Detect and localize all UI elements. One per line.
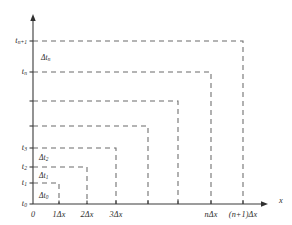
staircase-step-5 (33, 72, 211, 204)
delta-t-sub: 2 (46, 156, 49, 162)
x-axis-arrowhead (261, 201, 268, 206)
y-tick-label-t0: t0 (0, 200, 27, 209)
staircase-step-3 (33, 126, 148, 204)
y-tick-label-tnp1: tn+1 (0, 37, 27, 46)
delta-t-prefix: Δt (39, 191, 46, 200)
y-tick-label-sub: n (24, 70, 27, 76)
delta-t-sub: n (48, 56, 51, 62)
axes-group (30, 14, 268, 207)
y-tick-label-sub: n+1 (18, 39, 27, 45)
x-tick-label-x3: 3Δx (110, 211, 123, 219)
staircase-figure: t0t1t2t3tntn+1 01Δx2Δx3ΔxnΔx(n+1)Δx Δt0Δ… (0, 0, 292, 225)
y-tick-label-sub: 1 (24, 181, 27, 187)
delta-t-label-dtn: Δtn (41, 54, 50, 62)
delta-t-label-dt0: Δt0 (39, 192, 48, 200)
delta-t-label-dt2: Δt2 (39, 154, 48, 162)
x-tick-label-xnp1: (n+1)Δx (229, 211, 257, 219)
staircase-step-4 (33, 101, 178, 204)
x-tick-label-xn: nΔx (205, 211, 218, 219)
delta-t-prefix: Δt (39, 171, 46, 180)
y-tick-label-tn: tn (0, 68, 27, 77)
delta-t-sub: 0 (46, 194, 49, 200)
y-tick-label-t2: t2 (0, 163, 27, 172)
x-axis-name-label: x (279, 197, 283, 205)
x-tick-label-x1: 1Δx (53, 211, 66, 219)
delta-t-prefix: Δt (41, 53, 48, 62)
staircase-dashed-paths (33, 41, 243, 204)
x-tick-label-x0: 0 (31, 211, 35, 219)
delta-t-label-dt1: Δt1 (39, 172, 48, 180)
y-axis-arrowhead (30, 14, 35, 21)
y-tick-label-t1: t1 (0, 179, 27, 188)
delta-t-sub: 1 (46, 174, 49, 180)
delta-t-prefix: Δt (39, 153, 46, 162)
y-tick-label-sub: 3 (24, 146, 27, 152)
y-tick-label-sub: 2 (24, 165, 27, 171)
y-tick-label-sub: 0 (24, 202, 27, 208)
y-tick-label-t3: t3 (0, 144, 27, 153)
x-tick-label-x2: 2Δx (81, 211, 94, 219)
